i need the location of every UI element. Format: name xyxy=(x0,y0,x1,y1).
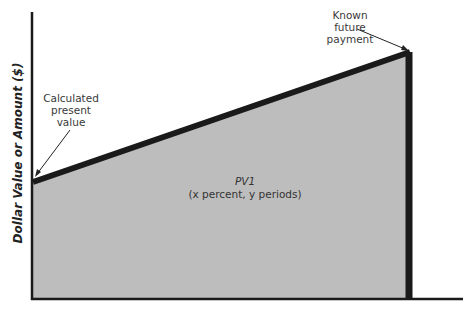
y-axis-label: Dollar Value or Amount ($) xyxy=(11,53,25,253)
annotation-line: payment xyxy=(318,33,382,45)
future-payment-arrowhead xyxy=(401,45,409,51)
annotation-line: Calculated xyxy=(36,92,106,104)
area-subtitle: (x percent, y periods) xyxy=(160,188,330,201)
present-value-annotation: Calculated present value xyxy=(36,92,106,128)
future-payment-annotation: Known future payment xyxy=(318,9,382,45)
area-label: PV1 (x percent, y periods) xyxy=(160,175,330,201)
annotation-line: value xyxy=(36,116,106,128)
annotation-line: present xyxy=(36,104,106,116)
area-title: PV1 xyxy=(160,175,330,188)
present-value-pointer xyxy=(37,130,70,174)
pv-diagram xyxy=(0,0,465,312)
annotation-line: Known xyxy=(318,9,382,21)
annotation-line: future xyxy=(318,21,382,33)
